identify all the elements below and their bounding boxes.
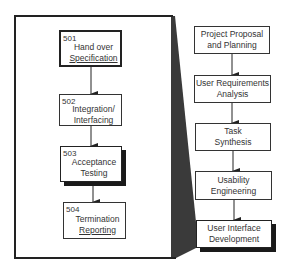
step-502: 502 Integration/ Interfacing [59,94,122,126]
phase-label: Usability Engineering [196,175,271,197]
process-diagram: 501 Hand over Specification 502 Integrat… [0,0,289,273]
step-label: Termination Reporting [64,214,125,236]
phase-label: User Interface Development [197,223,271,245]
step-label: Integration/ Interfacing [60,104,121,126]
phase-label: Task Synthesis [196,126,270,148]
step-number: 504 [66,205,79,214]
step-503: 503 Acceptance Testing [60,146,122,182]
phase-user-requirements: User Requirements Analysis [194,75,271,103]
phase-task-synthesis: Task Synthesis [195,123,271,151]
phase-label: Project Proposal and Planning [195,29,269,51]
step-501: 501 Hand over Specification [59,30,122,67]
phase-user-interface-development: User Interface Development [196,220,272,248]
step-label: Hand over Specification [61,42,120,64]
phase-project-proposal: Project Proposal and Planning [194,26,270,54]
expansion-wedge [171,16,196,258]
phase-usability-engineering: Usability Engineering [195,171,272,200]
phase-label: User Requirements Analysis [195,78,270,100]
step-504: 504 Termination Reporting [63,202,126,239]
step-label: Acceptance Testing [61,157,121,179]
